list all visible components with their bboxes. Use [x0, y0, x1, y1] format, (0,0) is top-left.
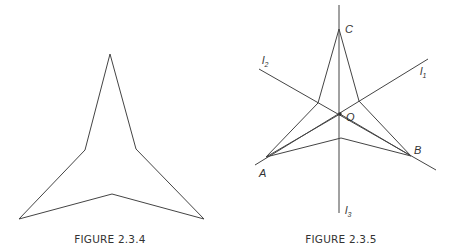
label-l3-sub: 3	[347, 211, 351, 218]
figure-canvas: FIGURE 2.3.4 C O B A l2 l1 l3 FIGURE 2.3…	[0, 0, 449, 252]
caption-figure-2-3-4: FIGURE 2.3.4	[74, 233, 145, 245]
label-O: O	[346, 111, 355, 123]
label-l1: l1	[420, 65, 426, 79]
label-l2-sub: 2	[263, 61, 268, 68]
label-l1-sub: 1	[422, 72, 426, 79]
line-l1	[255, 59, 428, 165]
label-B: B	[414, 144, 421, 156]
label-C: C	[345, 23, 353, 35]
label-l3: l3	[345, 204, 351, 218]
caption-figure-2-3-5: FIGURE 2.3.5	[305, 233, 376, 245]
center-point-O	[339, 113, 342, 116]
label-l2: l2	[262, 54, 268, 68]
star-polygon-left	[19, 54, 204, 219]
figure-2-3-5: C O B A l2 l1 l3 FIGURE 2.3.5	[255, 5, 436, 245]
label-A: A	[258, 167, 266, 179]
segment-OA	[266, 114, 340, 157]
figure-2-3-4: FIGURE 2.3.4	[19, 54, 204, 245]
